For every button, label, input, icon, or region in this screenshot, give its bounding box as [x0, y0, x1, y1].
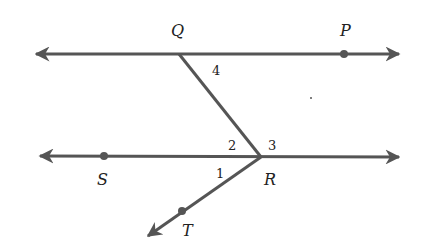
- point-t-dot: [178, 207, 186, 215]
- angle-1: 1: [216, 166, 224, 181]
- stray-dot: [310, 97, 312, 99]
- angle-3: 3: [268, 138, 276, 153]
- point-s-dot: [100, 152, 108, 160]
- geometry-diagram: Q P S R T 1 2 3 4: [0, 0, 423, 247]
- angle-2: 2: [228, 138, 236, 153]
- label-s: S: [97, 170, 108, 189]
- line-sr: [40, 156, 399, 157]
- label-t: T: [182, 221, 194, 240]
- point-p-dot: [340, 50, 348, 58]
- label-p: P: [339, 21, 351, 40]
- ray-rt: [148, 157, 261, 236]
- label-r: R: [263, 170, 276, 189]
- angle-4: 4: [212, 63, 220, 78]
- diagram-canvas: Q P S R T 1 2 3 4: [0, 0, 423, 247]
- label-q: Q: [171, 21, 184, 40]
